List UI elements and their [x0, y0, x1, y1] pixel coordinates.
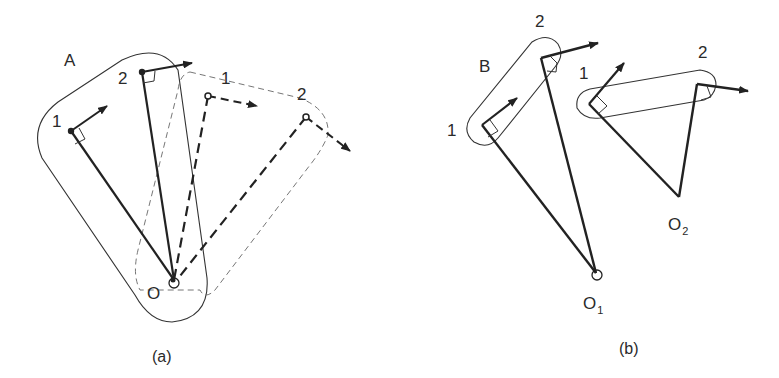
velocity-arrow-1 [71, 106, 107, 131]
kinematics-diagram: A 1 2 1 2 O (a) B 1 2 1 2 [0, 0, 779, 378]
point-b1-label: 1 [447, 121, 456, 140]
radius-line-o2-2 [679, 84, 697, 197]
pivot-o2-label: O2 [668, 215, 688, 237]
radius-line-o2 [142, 72, 174, 280]
rotated-radius-line-2 [180, 117, 306, 276]
body-a-label: A [64, 51, 76, 70]
right-angle-mark [701, 86, 711, 100]
radius-line-o1 [71, 131, 174, 280]
caption-b: (b) [619, 340, 639, 357]
rotated-point-1-label: 1 [221, 69, 230, 88]
point-b2-label: 2 [535, 12, 544, 31]
pivot-o1-label: O1 [583, 294, 603, 316]
rotated-velocity-arrow-2 [306, 117, 350, 151]
rotated-point-1 [205, 93, 211, 99]
body-b-outline [467, 37, 561, 145]
velocity-arrow-t2 [697, 84, 748, 91]
caption-a: (a) [152, 348, 172, 365]
point-2 [139, 69, 145, 75]
velocity-arrow-2 [142, 63, 192, 72]
right-angle-mark [547, 55, 557, 72]
pivot-o-label: O [147, 284, 160, 303]
point-t1-label: 1 [579, 64, 588, 83]
body-a-outline [38, 53, 208, 322]
radius-line-o2-1 [589, 104, 679, 197]
pivot-o-dot [171, 278, 176, 283]
rotated-velocity-arrow-1 [208, 96, 257, 106]
panel-a: A 1 2 1 2 O (a) [38, 51, 350, 365]
rotated-point-2 [303, 114, 309, 120]
body-b-label: B [479, 57, 490, 76]
point-2-label: 2 [118, 69, 127, 88]
right-angle-mark [75, 128, 85, 144]
body-a-rotated-outline [135, 72, 328, 295]
point-1-label: 1 [52, 112, 61, 131]
pivot-o1 [592, 270, 602, 280]
radius-line-o1-1 [482, 125, 596, 273]
point-t2-label: 2 [698, 43, 707, 62]
rotated-point-2-label: 2 [297, 85, 306, 104]
panel-b: B 1 2 1 2 O1 O2 (b) [447, 12, 748, 357]
right-angle-mark [597, 96, 607, 114]
point-1 [68, 128, 74, 134]
